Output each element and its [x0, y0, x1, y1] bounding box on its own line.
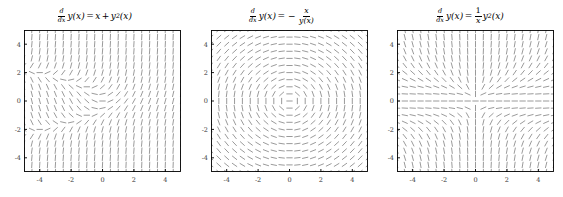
x-tick-label: -2	[255, 176, 261, 184]
x-tick-label: 4	[536, 176, 540, 184]
panel-3-title: d dx y(x)= 1 x y2(x)	[375, 6, 563, 26]
panel-3-lhs: y(x)	[446, 12, 463, 21]
y-tick-label: -2	[15, 126, 21, 134]
axis-ticks: -4-2024-4-2024	[388, 41, 541, 185]
panel-slope-field-2: d dx y(x)=− x y(x) -4-2024-4-2024	[188, 0, 376, 197]
panel-1-lhs: y(x)	[67, 12, 84, 21]
x-tick-label: 2	[505, 176, 509, 184]
x-tick-label: 4	[163, 176, 167, 184]
slope-field-1: -4-2024-4-2024	[10, 30, 183, 188]
x-tick-label: -2	[441, 176, 447, 184]
x-tick-label: -2	[68, 176, 74, 184]
panel-2-fraction-denominator: y(x)	[298, 17, 315, 26]
y-tick-label: 0	[17, 97, 21, 105]
derivative-operator-3: d dx	[435, 8, 445, 24]
panel-2-fraction: x y(x)	[298, 7, 315, 25]
panel-2-minus: −	[286, 12, 297, 21]
y-tick-label: 2	[390, 69, 394, 77]
y-tick-label: 0	[390, 97, 394, 105]
panel-slope-field-1: d dx y(x)=x+y2(x) -4-2024-4-2024	[0, 0, 188, 197]
panel-3-plot-area: -4-2024-4-2024	[383, 30, 556, 188]
derivative-denominator-2: dx	[248, 17, 258, 24]
panel-2-lhs: y(x)	[259, 12, 276, 21]
derivative-operator-2: d dx	[248, 8, 258, 24]
x-tick-label: 0	[474, 176, 478, 184]
y-tick-label: 4	[203, 41, 207, 49]
panel-3-fraction: 1 x	[475, 7, 482, 25]
slope-field-figure: d dx y(x)=x+y2(x) -4-2024-4-2024 d dx y(…	[0, 0, 563, 197]
derivative-denominator-1: dx	[57, 17, 67, 24]
panel-1-equals: =	[85, 12, 96, 21]
slope-dash-group	[208, 28, 370, 174]
y-tick-label: -4	[15, 154, 21, 162]
derivative-operator-1: d dx	[57, 8, 67, 24]
panel-1-plot-area: -4-2024-4-2024	[10, 30, 183, 188]
x-tick-label: 2	[132, 176, 136, 184]
slope-dash-group	[394, 27, 557, 175]
axis-ticks: -4-2024-4-2024	[15, 41, 168, 185]
x-tick-label: 2	[318, 176, 322, 184]
panel-2-plot-area: -4-2024-4-2024	[197, 30, 370, 188]
y-tick-label: 2	[17, 69, 21, 77]
x-tick-label: -4	[37, 176, 43, 184]
x-tick-label: 0	[287, 176, 291, 184]
x-tick-label: -4	[223, 176, 229, 184]
y-tick-label: -4	[201, 154, 207, 162]
slope-field-3: -4-2024-4-2024	[383, 30, 556, 188]
derivative-denominator-3: dx	[435, 17, 445, 24]
y-tick-label: -4	[388, 154, 394, 162]
panel-3-fraction-denominator: x	[475, 17, 481, 26]
slope-field-2: -4-2024-4-2024	[197, 30, 370, 188]
y-tick-label: 4	[17, 41, 21, 49]
y-tick-label: 0	[203, 97, 207, 105]
panel-3-equals: =	[463, 12, 474, 21]
panel-slope-field-3: d dx y(x)= 1 x y2(x) -4-2024-4-2024	[375, 0, 563, 197]
panel-2-title: d dx y(x)=− x y(x)	[188, 6, 376, 26]
y-tick-label: 2	[203, 69, 207, 77]
slope-dash-group	[22, 27, 182, 175]
panel-1-title: d dx y(x)=x+y2(x)	[0, 6, 188, 26]
x-tick-label: 4	[350, 176, 354, 184]
axis-ticks: -4-2024-4-2024	[201, 41, 354, 185]
y-tick-label: -2	[201, 126, 207, 134]
panel-2-equals: =	[276, 12, 287, 21]
panel-3-rhs-term-arg: (x)	[492, 12, 504, 21]
panel-1-plus: +	[100, 12, 111, 21]
y-tick-label: -2	[388, 126, 394, 134]
x-tick-label: 0	[100, 176, 104, 184]
x-tick-label: -4	[410, 176, 416, 184]
panel-1-rhs-term-2-arg: (x)	[120, 12, 132, 21]
y-tick-label: 4	[390, 41, 394, 49]
